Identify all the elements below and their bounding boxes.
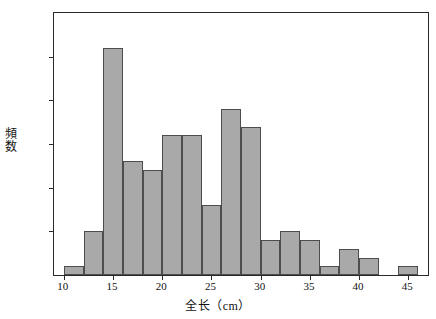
- histogram-bar: [84, 231, 104, 275]
- histogram-bar: [221, 109, 241, 275]
- x-axis-tick-label: 15: [92, 280, 132, 292]
- y-axis-tick: [49, 144, 54, 145]
- x-axis-tick-label: 10: [43, 280, 83, 292]
- histogram-bar: [398, 266, 418, 275]
- y-axis-tick: [49, 100, 54, 101]
- y-axis-tick: [49, 188, 54, 189]
- histogram-bar: [123, 161, 143, 275]
- x-axis-title: 全长（cm）: [0, 296, 436, 314]
- histogram-bar: [162, 135, 182, 275]
- x-axis-tick-label: 25: [190, 280, 230, 292]
- x-axis-tick-label: 30: [240, 280, 280, 292]
- histogram-bar: [280, 231, 300, 275]
- y-axis-tick: [49, 57, 54, 58]
- bar-series: [54, 13, 428, 275]
- histogram-bar: [182, 135, 202, 275]
- histogram-bar: [261, 240, 281, 275]
- histogram-bar: [241, 127, 261, 275]
- histogram-bar: [64, 266, 84, 275]
- x-axis-tick-label: 45: [387, 280, 427, 292]
- histogram-bar: [339, 249, 359, 275]
- x-axis-tick-label: 40: [338, 280, 378, 292]
- x-axis-tick-label: 35: [289, 280, 329, 292]
- histogram-bar: [300, 240, 320, 275]
- histogram-figure: 頻数 051015202530 全长（cm） 1015202530354045: [0, 0, 436, 319]
- histogram-bar: [143, 170, 163, 275]
- histogram-bar: [202, 205, 222, 275]
- y-axis-title: 頻数: [4, 128, 18, 154]
- histogram-bar: [103, 48, 123, 275]
- x-axis-tick-label: 20: [141, 280, 181, 292]
- histogram-bar: [320, 266, 340, 275]
- y-axis-tick: [49, 231, 54, 232]
- histogram-bar: [359, 258, 379, 275]
- plot-area: 051015202530: [53, 12, 429, 276]
